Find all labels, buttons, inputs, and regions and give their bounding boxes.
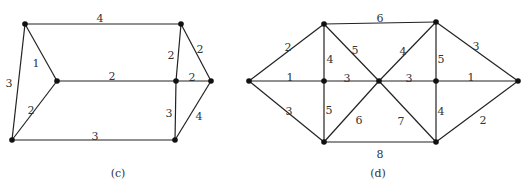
- vertex-T1: [321, 21, 327, 27]
- edge-weight-label: 2: [28, 104, 35, 117]
- figure-caption-c: (c): [111, 167, 126, 180]
- figure-caption-d: (d): [370, 167, 386, 180]
- vertex-R: [515, 78, 521, 84]
- graph-figure-canvas: 41322322234(c) 213645356843753142(d): [0, 0, 525, 187]
- edge-weight-label: 3: [166, 107, 173, 120]
- edge-B2-R: [436, 81, 518, 142]
- weighted-graph-c: 41322322234(c): [6, 12, 214, 180]
- vertex-C: [54, 78, 60, 84]
- edge-A-F: [12, 24, 25, 140]
- edge-weight-label: 4: [438, 105, 445, 118]
- weighted-graph-d: 213645356843753142(d): [246, 12, 521, 180]
- edge-weight-label: 2: [168, 49, 175, 62]
- edge-weight-label: 2: [197, 43, 204, 56]
- edge-weight-label: 5: [326, 104, 333, 117]
- edge-E-G: [175, 81, 211, 140]
- edge-weight-label: 4: [97, 12, 104, 25]
- edge-D-G: [175, 81, 176, 140]
- edge-weight-label: 4: [196, 110, 203, 123]
- vertex-M1: [321, 78, 327, 84]
- edge-weight-label: 3: [6, 77, 13, 90]
- vertex-M2: [433, 78, 439, 84]
- edge-A-C: [25, 24, 57, 81]
- edge-weight-label: 3: [473, 40, 480, 53]
- vertex-T2: [433, 19, 439, 25]
- edge-weight-label: 1: [287, 71, 294, 84]
- edge-weight-label: 4: [327, 53, 334, 66]
- vertex-L: [246, 78, 252, 84]
- edge-weight-label: 2: [109, 70, 116, 83]
- edge-weight-label: 3: [286, 105, 293, 118]
- vertex-B1: [321, 139, 327, 145]
- edge-weight-label: 2: [189, 71, 196, 84]
- vertex-B: [178, 21, 184, 27]
- edge-B-D: [176, 24, 181, 81]
- edge-weight-label: 3: [406, 72, 413, 85]
- edge-weight-label: 3: [344, 72, 351, 85]
- edge-weight-label: 2: [480, 114, 487, 127]
- edge-weight-label: 7: [398, 115, 405, 128]
- edge-weight-label: 2: [285, 41, 292, 54]
- edge-weight-label: 5: [352, 44, 359, 57]
- edge-C-F: [12, 81, 57, 140]
- edge-weight-label: 6: [356, 114, 363, 127]
- vertex-X: [376, 78, 382, 84]
- edge-weight-label: 3: [92, 130, 99, 143]
- vertex-B2: [433, 139, 439, 145]
- edge-weight-label: 4: [400, 45, 407, 58]
- vertex-E: [208, 78, 214, 84]
- edge-weight-label: 1: [468, 71, 475, 84]
- edge-weight-label: 1: [33, 57, 40, 70]
- edge-X-B2: [379, 81, 436, 142]
- vertex-D: [173, 78, 179, 84]
- vertex-G: [172, 137, 178, 143]
- edge-weight-label: 8: [377, 148, 384, 161]
- edge-weight-label: 6: [377, 12, 384, 25]
- edge-weight-label: 5: [438, 53, 445, 66]
- vertex-A: [22, 21, 28, 27]
- vertex-F: [9, 137, 15, 143]
